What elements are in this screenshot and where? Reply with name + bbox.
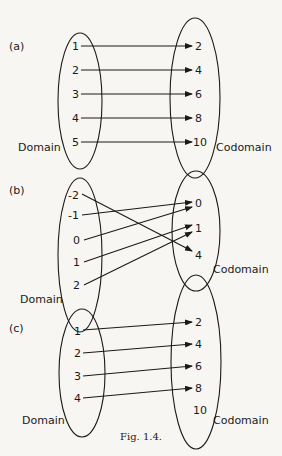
codomain-element: 4	[195, 64, 202, 77]
domain-element: 2	[74, 347, 81, 360]
domain-element: 4	[74, 392, 81, 405]
panel-a: (a) 1 2 3 4 5 2 4 6 8 10 Domain Codomain	[9, 18, 272, 178]
domain-label: Domain	[22, 414, 65, 427]
mapping-arrow	[83, 322, 192, 330]
panel-b: (b) -2 -1 0 1 2 0 1 4 Domain Codomain	[9, 171, 269, 332]
codomain-element: 8	[195, 112, 202, 125]
codomain-element: 4	[195, 338, 202, 351]
domain-element: -1	[68, 209, 79, 222]
domain-element: 1	[74, 325, 81, 338]
codomain-element: 2	[195, 316, 202, 329]
codomain-element: 6	[195, 88, 202, 101]
domain-set-a	[58, 33, 102, 169]
domain-element: 1	[72, 40, 79, 53]
function-mapping-figure: (a) 1 2 3 4 5 2 4 6 8 10 Domain Codomain…	[0, 0, 282, 456]
mapping-arrow	[83, 344, 192, 353]
domain-element: 3	[74, 370, 81, 383]
panel-b-label: (b)	[9, 184, 25, 197]
figure-caption: Fig. 1.4.	[120, 431, 162, 442]
mapping-arrow	[83, 388, 192, 398]
codomain-element: 6	[195, 360, 202, 373]
mapping-arrow	[82, 202, 192, 215]
codomain-element: 0	[195, 197, 202, 210]
domain-set-c	[59, 309, 105, 437]
codomain-element: 4	[195, 249, 202, 262]
codomain-element: 8	[195, 382, 202, 395]
mapping-arrow	[82, 194, 192, 251]
codomain-label: Codomain	[213, 263, 269, 276]
codomain-element: 10	[193, 136, 207, 149]
codomain-element: 1	[195, 222, 202, 235]
domain-label: Domain	[20, 293, 63, 306]
codomain-label: Codomain	[213, 414, 269, 427]
mapping-arrow	[84, 232, 192, 285]
codomain-element: 10	[193, 404, 207, 417]
domain-element: 0	[73, 234, 80, 247]
domain-element: 3	[72, 88, 79, 101]
mapping-arrow	[84, 225, 192, 262]
panel-c-label: (c)	[9, 322, 24, 335]
mapping-arrow	[83, 366, 192, 376]
panel-a-label: (a)	[9, 40, 24, 53]
domain-element: -2	[68, 189, 79, 202]
codomain-label: Codomain	[216, 141, 272, 154]
domain-element: 5	[72, 136, 79, 149]
domain-element: 2	[72, 64, 79, 77]
domain-element: 1	[73, 256, 80, 269]
domain-element: 4	[72, 112, 79, 125]
domain-element: 2	[73, 279, 80, 292]
domain-label: Domain	[18, 141, 61, 154]
codomain-element: 2	[195, 40, 202, 53]
